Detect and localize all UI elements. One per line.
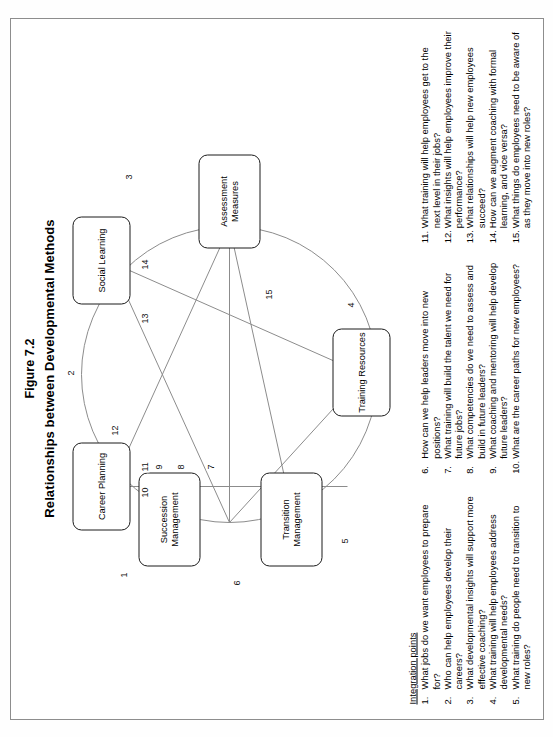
node-label: Career Planning [96,453,107,520]
list-item-number: 5. [509,690,520,705]
list-item: 8. What competencies do we need to asses… [463,259,486,474]
list-item: 12. What insights will help employees im… [441,29,464,244]
node-label: Transition Management [280,474,302,566]
edge-label-5: 5 [340,537,349,544]
node-label: Social Learning [96,228,107,292]
list-item: 14. How can we augment coaching with for… [486,29,509,244]
list-item: 6. How can we help leaders move into new… [418,259,441,474]
integration-points-list: 1. What jobs do we want employees to pre… [418,29,531,705]
list-item-text: What insights will help employees improv… [441,29,464,229]
figure-title: Relationships between Developmental Meth… [41,19,56,719]
list-item-number: 6. [418,459,429,474]
relationship-diagram: Career Planning Social Learning Assessme… [64,149,394,601]
list-item-text: What relationships will help new employe… [463,29,486,229]
list-item-text: What training do people need to transiti… [509,490,532,690]
node-transition-management[interactable]: Transition Management [260,473,322,567]
list-item-number: 12. [441,228,452,243]
node-label: Training Resources [356,332,367,412]
list-item: 11. What training will help employees ge… [418,29,441,244]
list-item: 7. What training will build the talent w… [441,259,464,474]
integration-points-heading: Integration points [406,29,417,705]
list-item-text: What competencies do we need to assess a… [463,259,486,459]
list-item: 13. What relationships will help new emp… [463,29,486,244]
edge-label-10: 10 [140,486,149,498]
list-item-number: 3. [463,690,474,705]
list-item-text: How can we help leaders move into new po… [418,259,441,459]
list-item-number: 13. [463,228,474,243]
edge-label-8: 8 [176,463,185,470]
list-item: 5. What training do people need to trans… [509,490,532,705]
list-item-text: What training will build the talent we n… [441,259,464,459]
list-item-text: What are the career paths for new employ… [509,259,520,459]
list-item-number: 1. [418,690,429,705]
edge-label-1: 1 [119,571,128,578]
list-item-number: 7. [441,459,452,474]
list-item: 10. What are the career paths for new em… [509,259,520,474]
list-item-text: What things do employees need to be awar… [509,29,532,229]
node-assessment-measures[interactable]: Assessment Measures [198,155,260,249]
list-item-number: 10. [509,459,520,474]
figure-page: Figure 7.2 Relationships between Develop… [0,0,553,737]
list-item: 9. What coaching and mentoring will help… [486,259,509,474]
node-label: Assessment Measures [218,156,240,248]
edge-label-9: 9 [154,463,163,470]
list-item-text: Who can help employees develop their car… [441,490,464,690]
figure-number-label: Figure 7.2 [22,19,36,719]
edge-label-15: 15 [264,288,273,300]
edge-label-3: 3 [124,173,133,180]
edge-label-7: 7 [206,463,215,470]
list-item-text: How can we augment coaching with formal … [486,29,509,229]
edge-label-2: 2 [66,369,75,376]
figure-stage: Figure 7.2 Relationships between Develop… [14,19,539,719]
rotated-content-wrapper: Figure 7.2 Relationships between Develop… [0,0,553,737]
node-social-learning[interactable]: Social Learning [72,217,130,305]
list-item-text: What training will help employees get to… [418,29,441,229]
list-item: 1. What jobs do we want employees to pre… [418,490,441,705]
list-item-text: What jobs do we want employees to prepar… [418,490,441,690]
list-item-number: 9. [486,459,497,474]
edge-label-6: 6 [232,579,241,586]
node-training-resources[interactable]: Training Resources [332,329,390,417]
node-label: Succession Management [158,474,180,566]
list-item-number: 8. [463,459,474,474]
edge-label-14: 14 [140,258,149,270]
list-item-text: What training will help employees addres… [486,490,509,690]
integration-points-section: Integration points 1. What jobs do we wa… [406,29,531,705]
list-item: 3. What developmental insights will supp… [463,490,486,705]
list-item: 4. What training will help employees add… [486,490,509,705]
list-item-number: 14. [486,228,497,243]
list-item-text: What developmental insights will support… [463,490,486,690]
edge-label-4: 4 [346,301,355,308]
list-item-text: What coaching and mentoring will help de… [486,259,509,459]
list-item-number: 11. [418,228,429,243]
edge-label-11: 11 [140,461,149,472]
edge-label-12: 12 [110,424,119,436]
list-item: 15. What things do employees need to be … [509,29,532,244]
list-item-number: 15. [509,228,520,243]
list-item-number: 4. [486,690,497,705]
node-career-planning[interactable]: Career Planning [72,443,130,531]
list-item-number: 2. [441,690,452,705]
list-item: 2. Who can help employees develop their … [441,490,464,705]
edge-label-13: 13 [140,312,149,324]
